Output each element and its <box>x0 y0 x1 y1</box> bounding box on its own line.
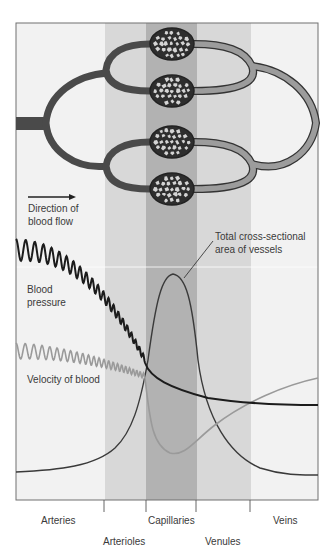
axis-label-veins: Veins <box>273 514 297 527</box>
axis-label-capillaries: Capillaries <box>148 514 195 527</box>
area-label-line2: area of vessels <box>215 243 282 256</box>
pressure-label-line2: pressure <box>27 296 66 309</box>
direction-label-line2: blood flow <box>28 215 73 228</box>
direction-label-line1: Direction of <box>28 202 79 215</box>
band-arterioles <box>105 23 146 500</box>
pressure-label-line1: Blood <box>27 283 53 296</box>
axis-label-arterioles: Arterioles <box>103 535 145 548</box>
axis-label-venules: Venules <box>205 535 241 548</box>
axis-ticks <box>104 500 250 512</box>
capillary-bed-icon <box>150 126 194 158</box>
axis-label-arteries: Arteries <box>41 514 75 527</box>
circulation-diagram <box>0 0 334 557</box>
capillary-bed-icon <box>150 173 194 205</box>
velocity-label: Velocity of blood <box>27 373 100 386</box>
capillary-bed-icon <box>150 28 194 60</box>
area-label-line1: Total cross-sectional <box>215 230 306 243</box>
capillary-bed-icon <box>150 75 194 107</box>
